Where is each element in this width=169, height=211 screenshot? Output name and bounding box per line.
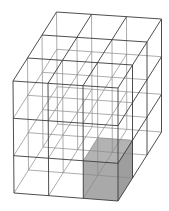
outer-edge-line <box>118 57 162 126</box>
grid-line <box>43 110 147 118</box>
outer-edge-line <box>28 58 133 65</box>
grid-line <box>28 95 133 102</box>
outer-edge-line <box>13 81 118 88</box>
cube-grid-diagram <box>0 0 169 211</box>
outer-edge-line <box>83 17 127 86</box>
grid-line <box>63 60 64 172</box>
outer-edge-line <box>13 12 57 81</box>
outer-edge-line <box>42 35 147 42</box>
grid-line <box>77 37 78 149</box>
outer-edge-line <box>118 94 162 163</box>
highlighted-cube <box>83 138 132 201</box>
grid-line <box>42 72 147 79</box>
outer-edge-line <box>13 81 14 193</box>
outer-edge-line <box>57 12 162 19</box>
highlight-front-face <box>83 161 118 201</box>
grid-line <box>28 133 132 141</box>
outer-edge-line <box>48 14 92 83</box>
grid-line <box>28 58 29 170</box>
outer-edge-line <box>118 19 162 88</box>
grid-line <box>42 35 43 147</box>
grid-line <box>57 49 162 56</box>
